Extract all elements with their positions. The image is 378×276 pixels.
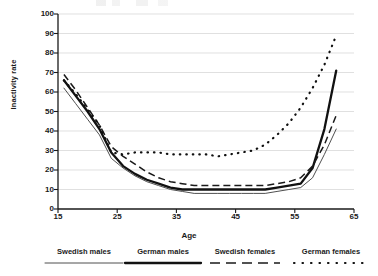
y-tick-label: 40 [24,127,54,135]
legend-item-3: German females [287,246,375,268]
legend-key-dotted-icon [287,260,375,268]
y-tick-label: 90 [24,30,54,38]
x-tick-label: 45 [231,212,240,221]
x-tick-label: 65 [350,212,359,221]
legend-label: Swedish females [203,246,287,257]
x-tick-label: 35 [172,212,181,221]
legend-key-dashed-icon [203,260,287,268]
y-tick-label: 80 [24,49,54,57]
y-tick-label: 100 [24,10,54,18]
chart-canvas [58,14,354,209]
series-line-1 [64,71,336,190]
legend-item-0: Swedish males [38,246,130,268]
legend-label: German females [287,246,375,257]
y-axis-ticks: 0102030405060708090100 [22,0,54,195]
series-line-3 [64,35,336,156]
y-tick-label: 70 [24,69,54,77]
y-tick-label: 30 [24,147,54,155]
legend-label: German males [118,246,208,257]
y-tick-label: 20 [24,166,54,174]
x-axis-label: Age [0,231,378,240]
y-tick-label: 10 [24,186,54,194]
y-tick-label: 60 [24,88,54,96]
plot-area [58,14,354,209]
inactivity-rate-line-chart: Inactivity rate 0102030405060708090100 1… [0,0,378,276]
x-axis-ticks: 152535455565 [58,212,354,228]
series-line-2 [64,74,336,185]
y-tick-label: 0 [24,205,54,213]
y-axis-label: Inactivity rate [9,25,18,145]
x-tick-label: 55 [290,212,299,221]
legend-label: Swedish males [38,246,130,257]
chart-legend: Swedish malesGerman malesSwedish females… [0,246,378,276]
cropped-text-artifact [96,0,192,6]
legend-key-thin-solid-icon [38,260,130,268]
legend-key-thick-solid-icon [118,260,208,268]
legend-item-1: German males [118,246,208,268]
x-tick-label: 15 [54,212,63,221]
x-tick-label: 25 [113,212,122,221]
y-tick-label: 50 [24,108,54,116]
legend-item-2: Swedish females [203,246,287,268]
